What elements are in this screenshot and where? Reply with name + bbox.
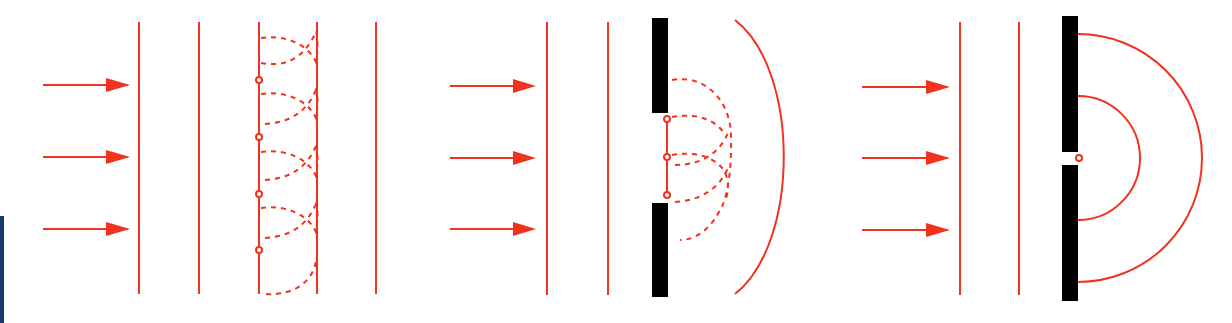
secondary-source-point	[664, 154, 670, 160]
barrier-top	[1062, 16, 1078, 152]
barrier-top	[652, 18, 668, 113]
arrowhead-icon	[106, 150, 130, 164]
plane-wavefronts	[960, 22, 1019, 295]
secondary-wavelet	[266, 260, 316, 294]
barrier-bottom	[1062, 165, 1078, 301]
secondary-source-point	[256, 134, 262, 140]
secondary-wavelet	[261, 146, 318, 176]
secondary-wavelet	[675, 165, 729, 202]
secondary-wavelet	[261, 32, 316, 64]
panel-free-propagation	[43, 22, 376, 294]
arrowhead-icon	[513, 79, 536, 93]
secondary-source-point	[256, 77, 262, 83]
secondary-wavelet	[672, 154, 728, 200]
incident-arrows	[862, 80, 950, 237]
panel-narrow-aperture	[862, 16, 1202, 301]
incident-arrows	[43, 78, 130, 236]
plane-wavefronts	[547, 22, 608, 295]
secondary-wavelet	[672, 116, 725, 135]
arrowhead-icon	[926, 223, 950, 237]
arrowhead-icon	[513, 151, 536, 165]
secondary-source-point	[664, 192, 670, 198]
secondary-source-point	[256, 191, 262, 197]
huygens-diffraction-diagram	[0, 0, 1232, 323]
panel-wide-aperture	[450, 18, 784, 297]
point-source	[1076, 155, 1082, 161]
incident-arrows	[450, 79, 536, 236]
secondary-wavelets	[261, 30, 318, 294]
emerging-curved-wavefront	[735, 20, 784, 294]
secondary-source-point	[256, 247, 262, 253]
semicircular-wavefront-inner	[1078, 96, 1140, 220]
barrier-bottom	[652, 203, 668, 297]
secondary-wavelet	[675, 130, 729, 165]
arrowhead-icon	[926, 151, 950, 165]
arrowhead-icon	[513, 222, 536, 236]
arrowhead-icon	[926, 80, 950, 94]
secondary-wavelet	[672, 79, 731, 240]
arrowhead-icon	[106, 78, 130, 92]
secondary-source-point	[664, 116, 670, 122]
secondary-wavelets	[672, 79, 731, 240]
arrowhead-icon	[106, 222, 130, 236]
